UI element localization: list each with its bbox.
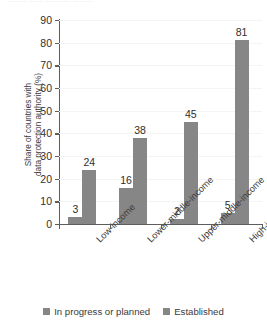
x-axis-category-label: Lower-middle-income [146, 237, 153, 244]
y-axis-tick-label: 10 [40, 195, 52, 207]
gridline [59, 20, 262, 21]
bar-value-label: 81 [236, 26, 248, 38]
y-axis-tick-label: 20 [40, 173, 52, 185]
x-axis-tick [59, 224, 60, 229]
legend-swatch-icon [43, 308, 50, 315]
y-axis-title-line1: Share of countries with [24, 83, 33, 166]
y-axis-tick-label: 90 [40, 14, 52, 26]
x-axis-category-label: High-income [247, 237, 254, 244]
clipped-title-remnant: ▁▁▁ ▁▁ ▁▁▁▁ ▁▁▁ [8, 0, 128, 2]
bar [68, 217, 82, 224]
x-axis-tick [110, 224, 111, 229]
y-axis-tick-label: 70 [40, 59, 52, 71]
legend-label: Established [174, 306, 224, 317]
plot-area: 01020304050607080903241638245581 [59, 20, 262, 224]
gridline [59, 133, 262, 134]
gridline [59, 43, 262, 44]
legend-item[interactable]: Established [163, 306, 224, 317]
y-axis-tick [55, 133, 59, 134]
y-axis-tick [55, 201, 59, 202]
x-axis-category-label: Upper-middle-income [196, 237, 203, 244]
chart-legend: In progress or plannedEstablished [0, 306, 267, 317]
y-axis-tick-label: 50 [40, 105, 52, 117]
y-axis-tick-label: 60 [40, 82, 52, 94]
y-axis-tick [55, 43, 59, 44]
legend-swatch-icon [163, 308, 170, 315]
bar-value-label: 45 [185, 108, 197, 120]
y-axis-tick-label: 0 [46, 218, 52, 230]
y-axis-tick-label: 80 [40, 37, 52, 49]
x-axis-tick [161, 224, 162, 229]
gridline [59, 88, 262, 89]
y-axis-tick [55, 65, 59, 66]
chart-figure: ▁▁▁ ▁▁ ▁▁▁▁ ▁▁▁ Share of countries with … [0, 0, 267, 325]
x-axis-tick [262, 224, 263, 229]
gridline [59, 111, 262, 112]
y-axis-tick-label: 40 [40, 127, 52, 139]
bar-value-label: 3 [72, 203, 78, 215]
bar-value-label: 38 [134, 124, 146, 136]
y-axis-tick [55, 179, 59, 180]
y-axis-tick [55, 156, 59, 157]
y-axis-tick [55, 88, 59, 89]
bar-value-label: 16 [120, 174, 132, 186]
bar [133, 138, 147, 224]
legend-label: In progress or planned [54, 306, 150, 317]
y-axis-tick [55, 111, 59, 112]
y-axis-tick-label: 30 [40, 150, 52, 162]
bar [82, 170, 96, 224]
legend-item[interactable]: In progress or planned [43, 306, 150, 317]
x-axis-category-label: Low-income [95, 237, 102, 244]
x-axis-tick [211, 224, 212, 229]
gridline [59, 65, 262, 66]
bar-value-label: 24 [84, 156, 96, 168]
y-axis-tick [55, 20, 59, 21]
